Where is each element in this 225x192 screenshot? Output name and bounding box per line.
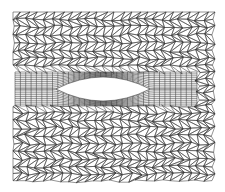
- lens-hole: [56, 77, 150, 101]
- mesh-diagram: [0, 0, 225, 192]
- mesh-figure: [0, 0, 225, 192]
